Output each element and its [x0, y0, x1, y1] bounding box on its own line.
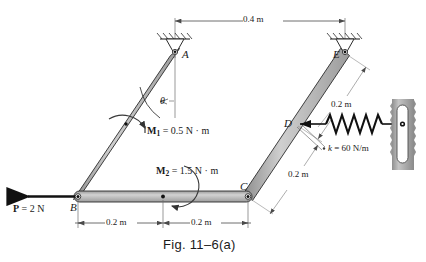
force-P-value: = 2 N: [22, 203, 45, 214]
wall-bracket: [390, 99, 416, 170]
moment-M2-value: = 1.5 N · m: [172, 165, 218, 176]
spring-stiffness-value: = 60 N/m: [334, 143, 369, 153]
figure-caption: Fig. 11–6(a): [163, 238, 236, 251]
point-label-C: C: [240, 181, 247, 192]
moment-M1-value: = 0.5 N · m: [163, 125, 209, 136]
spring-stiffness-symbol: k: [328, 143, 332, 153]
engineering-figure: 0.4 m A E B C D θ M1 = 0.5 N · m M2 = 1.…: [0, 0, 426, 262]
dimension-label-top: 0.4 m: [243, 15, 264, 24]
dimension-label-bottom-right: 0.2 m: [191, 218, 212, 227]
dimension-label-right-lower: 0.2 m: [288, 170, 309, 179]
force-P-label: P = 2 N: [13, 204, 44, 214]
point-label-E: E: [333, 49, 340, 60]
dimension-top-0-4m: [175, 18, 345, 58]
dimension-right-inclined: [249, 54, 370, 214]
angle-label-theta: θ: [160, 96, 165, 106]
figure-drawing: [0, 0, 426, 262]
spring-stiffness-label: k = 60 N/m: [328, 144, 369, 153]
point-label-D: D: [284, 118, 292, 129]
point-label-B: B: [70, 202, 77, 213]
dimension-label-bottom-left: 0.2 m: [106, 218, 127, 227]
moment-M2-subscript: 2: [165, 169, 169, 178]
point-label-A: A: [182, 49, 189, 60]
dimension-label-right-upper: 0.2 m: [331, 100, 352, 109]
moment-M1-label: M1 = 0.5 N · m: [147, 126, 209, 138]
force-P-symbol: P: [13, 203, 19, 214]
moment-M2-label: M2 = 1.5 N · m: [156, 166, 218, 178]
spring-assembly: [300, 115, 400, 133]
moment-M1-subscript: 1: [156, 129, 160, 138]
dimension-bottom: [75, 200, 251, 228]
